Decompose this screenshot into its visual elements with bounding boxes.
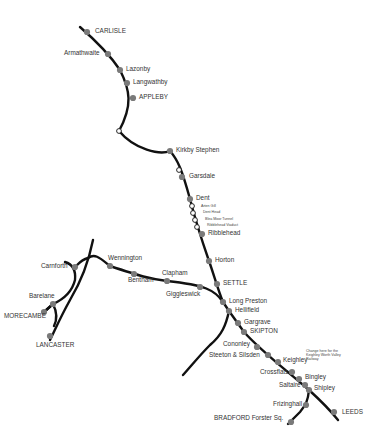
station-label-armathwaite: Armathwaite (64, 50, 100, 56)
landmark-marker (190, 204, 195, 209)
station-label-bradford: BRADFORD Forster Sq. (214, 415, 283, 421)
station-label-garsdale: Garsdale (189, 173, 215, 179)
station-label-crossflats: Crossflats (260, 369, 288, 375)
station-marker-settle (214, 281, 220, 287)
station-label-ribblehead: Ribblehead (208, 230, 240, 236)
station-marker-lazonby (117, 67, 123, 73)
station-label-saltaire: Saltaire (279, 382, 301, 388)
station-marker-saltaire (302, 382, 308, 388)
station-marker-gargrave (235, 320, 241, 326)
station-marker-long-preston (220, 299, 226, 305)
station-marker-carnforth (72, 264, 78, 270)
station-marker-keighley (275, 359, 281, 365)
station-marker-bare-lane (50, 301, 56, 307)
landmark-label: Dent Head (203, 211, 220, 215)
station-label-giggleswick: Giggleswick (166, 291, 200, 297)
landmark-marker (177, 168, 182, 173)
station-label-hellifield: Hellifield (235, 307, 259, 313)
station-label-bare-lane: Barelane (29, 293, 55, 299)
station-marker-cononley (254, 344, 260, 350)
landmark-marker (191, 211, 196, 216)
station-label-keighley: Keighley (283, 357, 308, 363)
station-marker-shipley (306, 387, 312, 393)
station-label-bingley: Bingley (305, 374, 326, 380)
station-marker-armathwaite (105, 51, 111, 57)
settle-carlisle-line (80, 27, 229, 311)
station-label-clapham: Clapham (162, 270, 188, 276)
landmark-marker (193, 218, 198, 223)
station-label-frizinghall: Frizinghall (273, 401, 302, 407)
station-label-bentham: Bentham (128, 277, 154, 283)
carnforth-spur (44, 262, 75, 312)
landmark-marker (117, 129, 122, 134)
station-label-lazonby: Lazonby (126, 66, 150, 72)
station-marker-hellifield (226, 308, 232, 314)
landmark-label: Arten Gill (201, 205, 216, 209)
station-label-horton: Horton (215, 257, 234, 263)
station-label-long-preston: Long Preston (229, 298, 267, 304)
station-marker-skipton (241, 329, 247, 335)
station-marker-appleby (130, 95, 136, 101)
station-label-leeds: LEEDS (342, 409, 363, 415)
station-label-shipley: Shipley (314, 385, 335, 391)
station-label-dent: Dent (196, 195, 210, 201)
station-label-morecambe: MORECAMBE (4, 313, 46, 319)
station-marker-dent (187, 196, 193, 202)
keighley-change-note: Change here for the Keighley Worth Valle… (306, 349, 350, 361)
station-label-cononley: Cononley (223, 341, 250, 347)
station-label-appleby: APPLEBY (139, 94, 168, 100)
station-label-steeton-silsden: Steeton & Silsden (209, 352, 260, 358)
landmark-label: Ribblehead Viaduct (207, 224, 238, 228)
station-label-lancaster: LANCASTER (36, 342, 74, 348)
station-label-kirkby-stephen: Kirkby Stephen (176, 147, 219, 153)
station-marker-leeds (331, 409, 337, 415)
station-label-settle: SETTLE (223, 280, 247, 286)
station-marker-crossflats (289, 369, 295, 375)
station-label-carnforth: Carnforth (41, 263, 68, 269)
station-label-langwathby: Langwathby (133, 79, 167, 85)
station-marker-langwathby (124, 80, 130, 86)
station-label-gargrave: Gargrave (244, 319, 271, 325)
station-marker-ribblehead (199, 231, 205, 237)
station-marker-bradford (288, 419, 294, 425)
station-marker-horton (206, 258, 212, 264)
station-label-carlisle: CARLISLE (95, 28, 126, 34)
landmark-marker (195, 225, 200, 230)
landmark-label: Blea Moor Tunnel (205, 218, 233, 222)
station-marker-wennington (107, 263, 113, 269)
station-marker-garsdale (179, 174, 185, 180)
station-marker-steeton-silsden (265, 352, 271, 358)
station-marker-carlisle (84, 29, 90, 35)
station-marker-kirkby-stephen (167, 148, 173, 154)
station-label-skipton: SKIPTON (250, 328, 278, 334)
station-marker-clapham (164, 278, 170, 284)
station-marker-lancaster (47, 333, 53, 339)
station-marker-frizinghall (303, 402, 309, 408)
station-label-wennington: Wennington (108, 255, 142, 261)
